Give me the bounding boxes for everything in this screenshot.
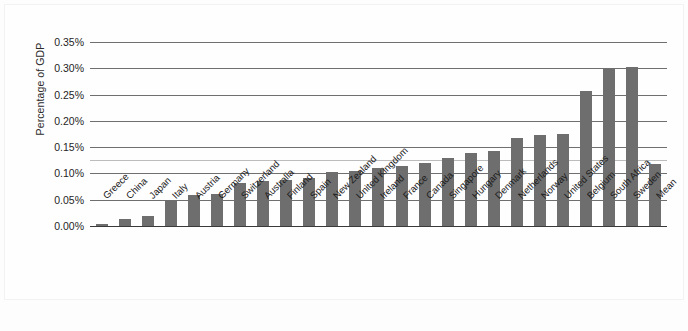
y-axis-tick-label: 0.05%: [54, 194, 84, 206]
bar[interactable]: [165, 200, 177, 226]
chart-frame: Percentage of GDP 0.35%0.30%0.25%0.20%0.…: [4, 4, 684, 300]
y-axis-tick-label: 0.25%: [54, 89, 84, 101]
y-axis-tick-label: 0.35%: [54, 36, 84, 48]
bar[interactable]: [188, 195, 200, 226]
y-axis-tick-label: 0.20%: [54, 115, 84, 127]
bar[interactable]: [626, 67, 638, 226]
y-axis-tick-label: 0.00%: [54, 220, 84, 232]
y-axis-tick-label: 0.10%: [54, 167, 84, 179]
y-axis-tick-label: 0.15%: [54, 141, 84, 153]
bar[interactable]: [580, 91, 592, 226]
chart-figure: Percentage of GDP 0.35%0.30%0.25%0.20%0.…: [0, 0, 688, 331]
y-axis-title: Percentage of GDP: [34, 9, 46, 169]
bar[interactable]: [142, 216, 154, 226]
x-axis-line: [90, 226, 667, 228]
bar[interactable]: [603, 69, 615, 226]
y-axis-tick-label: 0.30%: [54, 62, 84, 74]
